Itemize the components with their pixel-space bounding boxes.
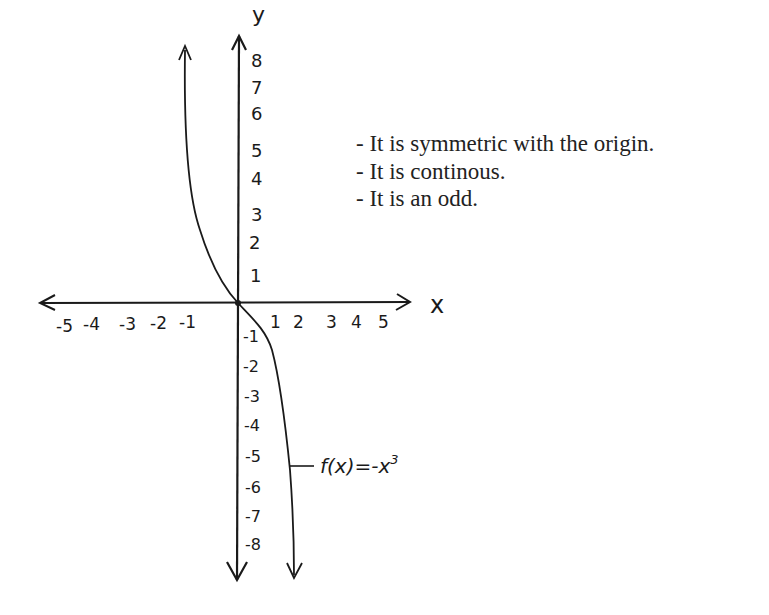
y-axis-label: y	[252, 2, 265, 27]
x-tick-labels: -5 -4 -3 -2 -1 1 2 3 4 5	[56, 312, 389, 336]
svg-text:5: 5	[251, 140, 262, 161]
function-graph: y x -5 -4 -3 -2 -1 1 2 3 4 5 8 7 6 5 4 3…	[0, 0, 769, 615]
y-axis	[227, 36, 247, 580]
svg-text:8: 8	[251, 50, 262, 71]
svg-text:4: 4	[351, 312, 362, 332]
properties-notes: - It is symmetric with the origin. - It …	[356, 130, 654, 213]
svg-text:1: 1	[270, 312, 281, 332]
svg-text:-4: -4	[83, 314, 100, 334]
y-tick-labels-negative: -1 -2 -3 -4 -5 -6 -7 -8	[243, 327, 261, 554]
svg-text:-1: -1	[179, 312, 196, 332]
svg-text:4: 4	[251, 168, 262, 189]
function-label: f(x)=-x3	[320, 452, 399, 478]
svg-text:5: 5	[378, 312, 389, 332]
svg-text:-3: -3	[244, 387, 260, 406]
origin-point	[235, 300, 241, 306]
note-odd: - It is an odd.	[356, 185, 654, 213]
svg-text:2: 2	[249, 232, 260, 253]
svg-text:-5: -5	[245, 447, 261, 466]
svg-text:-4: -4	[244, 416, 260, 435]
svg-text:-1: -1	[243, 327, 259, 346]
svg-text:2: 2	[293, 312, 304, 332]
note-continuous: - It is continous.	[356, 158, 654, 186]
x-axis-label: x	[430, 291, 444, 319]
note-symmetric: - It is symmetric with the origin.	[356, 130, 654, 158]
svg-text:-8: -8	[245, 535, 261, 554]
svg-text:-3: -3	[119, 314, 136, 334]
svg-text:1: 1	[250, 265, 261, 286]
svg-text:3: 3	[326, 312, 337, 332]
svg-text:6: 6	[251, 103, 262, 124]
svg-text:7: 7	[251, 77, 262, 98]
svg-text:-2: -2	[150, 313, 167, 333]
svg-text:-7: -7	[245, 507, 261, 526]
y-tick-labels-positive: 8 7 6 5 4 3 2 1	[249, 50, 262, 286]
svg-text:-6: -6	[245, 478, 261, 497]
svg-text:-5: -5	[56, 316, 73, 336]
x-axis	[40, 294, 410, 310]
svg-text:3: 3	[251, 204, 262, 225]
svg-text:-2: -2	[243, 357, 259, 376]
